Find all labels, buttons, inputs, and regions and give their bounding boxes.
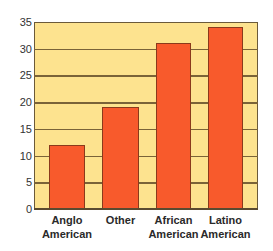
ytick-label: 0 [2,203,32,215]
ytick-label: 20 [2,96,32,108]
xlabel-line: American [191,227,261,241]
bar-african-american [156,43,191,209]
ytick-label: 30 [2,43,32,55]
x-axis-line [34,208,258,210]
bar-latino-american [208,27,243,209]
xlabel-line: Latino [191,213,261,227]
ytick-label: 15 [2,123,32,135]
ytick-label: 35 [2,16,32,28]
xlabel-latino-american: Latino American [191,213,261,241]
ytick-label: 25 [2,69,32,81]
bar-anglo-american [49,145,85,209]
bar-chart: 0 5 10 15 20 25 30 35 Anglo American Oth… [0,0,273,251]
bar-other [102,107,139,209]
ytick-label: 5 [2,176,32,188]
xlabel-line: American [32,227,102,241]
ytick-label: 10 [2,150,32,162]
